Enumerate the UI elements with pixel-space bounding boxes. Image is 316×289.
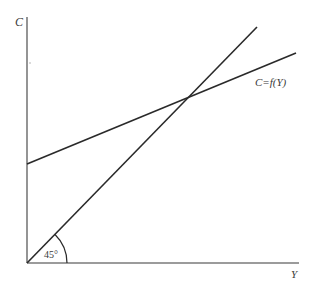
consumption-function-label: C=f(Y) <box>255 76 287 89</box>
x-axis-label: Y <box>291 268 299 280</box>
axis-artifact-dot <box>29 62 30 63</box>
consumption-function-line <box>27 53 296 164</box>
y-axis-label: C <box>15 15 24 29</box>
45-degree-line <box>27 27 257 263</box>
angle-label: 45° <box>44 249 58 260</box>
keynesian-cross-diagram: C Y C=f(Y) 45° <box>0 0 316 289</box>
